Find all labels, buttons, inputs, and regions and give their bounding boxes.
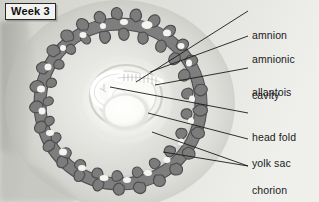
yolk-sac: [102, 93, 150, 131]
embryo-week3-figure: Week 3 amnion amnionic cavity allantois …: [0, 0, 319, 202]
label-chorion: chorion (forming chorionic villi): [252, 160, 317, 202]
label-allantois-line1: allantois: [252, 86, 291, 98]
stage-badge: Week 3: [5, 3, 56, 20]
label-chorion-line1: chorion: [252, 184, 317, 196]
